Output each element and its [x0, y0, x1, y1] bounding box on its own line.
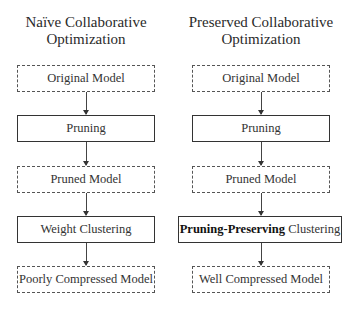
box-label: Original Model	[222, 71, 299, 86]
box-label: Original Model	[47, 71, 124, 86]
arrow-down	[261, 193, 262, 215]
arrow-down	[86, 92, 87, 114]
box-label: Pruning	[241, 121, 281, 136]
arrow-down	[261, 243, 262, 265]
box-label: Weight Clustering	[41, 222, 132, 237]
right-original-model-box: Original Model	[192, 65, 330, 92]
right-pruned-model-box: Pruned Model	[192, 166, 330, 193]
left-pruned-model-box: Pruned Model	[17, 166, 155, 193]
left-original-model-box: Original Model	[17, 65, 155, 92]
box-label: Pruned Model	[50, 172, 121, 187]
right-title-line1: Preserved Collaborative	[171, 14, 351, 31]
arrow-down	[261, 92, 262, 114]
box-label: Pruned Model	[225, 172, 296, 187]
box-label: Well Compressed Model	[199, 272, 323, 287]
box-label: Poorly Compressed Model	[19, 272, 153, 287]
left-poorly-compressed-model-box: Poorly Compressed Model	[17, 266, 155, 293]
left-pruning-box: Pruning	[17, 115, 155, 142]
arrow-down	[86, 142, 87, 165]
right-title-line2: Optimization	[171, 31, 351, 48]
left-title-line1: Naïve Collaborative	[0, 14, 176, 31]
right-pruning-box: Pruning	[192, 115, 330, 142]
right-column-title: Preserved Collaborative Optimization	[171, 14, 351, 48]
box-label: Pruning	[66, 121, 106, 136]
left-weight-clustering-box: Weight Clustering	[17, 216, 155, 243]
arrow-down	[86, 193, 87, 215]
left-title-line2: Optimization	[0, 31, 176, 48]
box-label-bold: Pruning-Preserving	[180, 222, 285, 237]
right-well-compressed-model-box: Well Compressed Model	[192, 266, 330, 293]
box-label: Clustering	[285, 222, 340, 237]
arrow-down	[261, 142, 262, 165]
right-pruning-preserving-clustering-box: Pruning-Preserving Clustering	[178, 216, 342, 243]
arrow-down	[86, 243, 87, 265]
left-column-title: Naïve Collaborative Optimization	[0, 14, 176, 48]
